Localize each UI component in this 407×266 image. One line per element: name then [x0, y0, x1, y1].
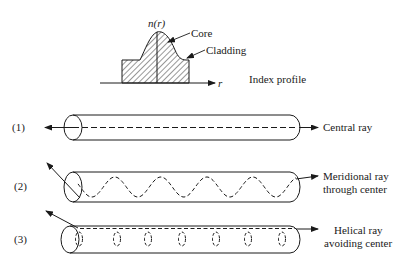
helical-loop [145, 232, 152, 246]
helical-loop [179, 232, 186, 246]
core-leader [168, 33, 190, 42]
r-axis-label: r [218, 77, 222, 89]
ray-2-number: (2) [14, 180, 27, 192]
ray-3-number: (3) [14, 233, 27, 245]
cladding-leader [187, 50, 205, 58]
fiber-1 [45, 115, 318, 140]
profile-shape [122, 32, 189, 83]
helical-loop [279, 232, 286, 246]
meridional-ray-wave [78, 177, 296, 197]
helical-loop [213, 232, 220, 246]
n-of-r-label: n(r) [148, 17, 165, 29]
fiber-2-body [73, 172, 300, 202]
meridional-ray-in [47, 163, 80, 198]
ray-1-number: (1) [12, 121, 25, 133]
meridional-ray-out [296, 176, 318, 179]
helical-loops [76, 232, 286, 246]
helical-loop [114, 232, 121, 246]
helical-ray-in [46, 211, 78, 228]
cladding-label: Cladding [206, 44, 246, 56]
meridional-ray-label-line2: through center [323, 183, 387, 195]
index-profile [100, 32, 215, 83]
fiber-2 [47, 163, 318, 202]
meridional-ray-label-line1: Meridional ray [323, 170, 389, 182]
central-ray-label: Central ray [323, 121, 372, 133]
fiber-3-end-face [61, 226, 79, 253]
index-profile-caption: Index profile [249, 73, 306, 85]
fiber-3 [46, 211, 318, 253]
helical-ray-label-line1: Helical ray [334, 224, 383, 236]
core-label: Core [191, 27, 212, 39]
helical-loop [245, 232, 252, 246]
helical-ray-label-line2: avoiding center [324, 237, 392, 249]
